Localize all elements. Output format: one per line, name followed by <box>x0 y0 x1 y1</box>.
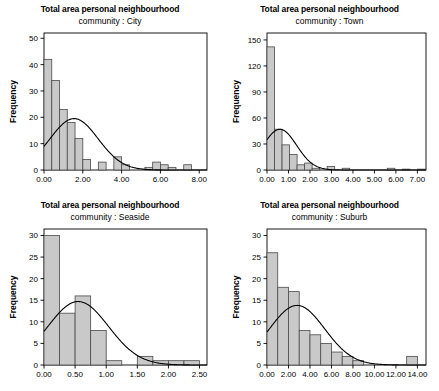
plot-area: 0.001.002.003.004.005.006.007.0003060901… <box>220 0 439 196</box>
y-tick-label: 10 <box>29 318 38 327</box>
x-tick-label: 12.00 <box>386 370 407 379</box>
y-tick-label: 30 <box>252 231 261 240</box>
y-tick-label: 10 <box>29 140 38 149</box>
x-tick-label: 6.00 <box>388 175 404 184</box>
x-tick-label: 3.00 <box>324 175 340 184</box>
x-tick-label: 0.00 <box>36 370 52 379</box>
x-tick-label: 0.00 <box>259 175 275 184</box>
y-tick-label: 10 <box>252 318 261 327</box>
histogram-bar <box>160 165 168 170</box>
histogram-bar <box>407 356 418 365</box>
histogram-bar <box>184 165 192 170</box>
x-tick-label: 0.00 <box>259 370 275 379</box>
x-tick-label: 0.00 <box>36 175 52 184</box>
x-tick-label: 2.00 <box>281 370 297 379</box>
x-tick-label: 6.00 <box>153 175 169 184</box>
histogram-bar <box>267 47 275 170</box>
histogram-bar <box>52 80 60 170</box>
y-tick-label: 20 <box>29 275 38 284</box>
y-axis-label: Frequency <box>8 275 18 318</box>
y-tick-label: 120 <box>248 62 262 71</box>
y-axis-label: Frequency <box>231 80 241 123</box>
y-tick-label: 30 <box>29 231 38 240</box>
x-tick-label: 8.00 <box>345 370 361 379</box>
x-tick-label: 8.00 <box>191 175 207 184</box>
x-tick-label: 5.00 <box>367 175 383 184</box>
plot-area: 0.000.501.001.502.002.50051015202530Freq… <box>0 196 220 391</box>
histogram-bar <box>67 123 75 170</box>
x-tick-label: 2.00 <box>161 370 177 379</box>
histogram-bar <box>44 235 60 365</box>
x-tick-label: 10.00 <box>364 370 385 379</box>
histogram-bar <box>282 145 290 170</box>
histogram-bar <box>60 313 76 365</box>
y-tick-label: 15 <box>29 296 38 305</box>
histogram-bar <box>278 287 289 365</box>
x-tick-label: 1.50 <box>130 370 146 379</box>
y-tick-label: 15 <box>252 296 261 305</box>
x-tick-label: 0.50 <box>67 370 83 379</box>
histogram-bar <box>297 165 305 170</box>
x-tick-label: 7.00 <box>410 175 426 184</box>
y-tick-label: 0 <box>257 361 262 370</box>
histogram-bar <box>331 352 342 365</box>
y-tick-label: 30 <box>252 140 261 149</box>
plot-area: 0.002.004.006.008.0001020304050Frequency <box>0 0 220 196</box>
histogram-bar <box>83 159 91 170</box>
histogram-bar <box>98 162 106 170</box>
y-tick-label: 90 <box>252 88 261 97</box>
histogram-bar <box>44 59 52 170</box>
panel-city: Total area personal neighbourhood commun… <box>0 0 220 196</box>
histogram-bar <box>299 330 310 365</box>
plot-area: 0.002.004.006.008.0010.0012.0014.0005101… <box>220 196 439 391</box>
histogram-bar <box>275 129 283 170</box>
histogram-bar <box>267 253 278 365</box>
x-tick-label: 6.00 <box>324 370 340 379</box>
histogram-bar <box>114 157 122 170</box>
x-tick-label: 2.00 <box>302 175 318 184</box>
y-tick-label: 0 <box>34 166 39 175</box>
y-axis-label: Frequency <box>231 275 241 318</box>
y-tick-label: 20 <box>252 275 261 284</box>
y-tick-label: 60 <box>252 114 261 123</box>
histogram-bar <box>106 361 122 365</box>
x-tick-label: 1.00 <box>98 370 114 379</box>
y-tick-label: 25 <box>252 253 261 262</box>
y-tick-label: 5 <box>257 339 262 348</box>
histogram-panel-grid: Total area personal neighbourhood commun… <box>0 0 439 391</box>
x-tick-label: 4.00 <box>345 175 361 184</box>
panel-suburb: Total area personal neighbourhood commun… <box>220 196 439 391</box>
x-tick-label: 1.00 <box>281 175 297 184</box>
histogram-bar <box>290 154 298 170</box>
panel-town: Total area personal neighbourhood commun… <box>220 0 439 196</box>
y-axis-label: Frequency <box>8 80 18 123</box>
y-tick-label: 40 <box>29 61 38 70</box>
histogram-bar <box>310 335 321 365</box>
x-tick-label: 2.00 <box>75 175 91 184</box>
x-tick-label: 2.50 <box>192 370 208 379</box>
panel-seaside: Total area personal neighbourhood commun… <box>0 196 220 391</box>
x-tick-label: 4.00 <box>114 175 130 184</box>
x-tick-label: 4.00 <box>302 370 318 379</box>
y-tick-label: 5 <box>34 339 39 348</box>
y-tick-label: 30 <box>29 87 38 96</box>
plot-frame <box>267 33 426 170</box>
y-tick-label: 50 <box>29 34 38 43</box>
histogram-bar <box>342 356 353 365</box>
histogram-bar <box>60 109 68 170</box>
histogram-bar <box>288 292 299 365</box>
y-tick-label: 0 <box>257 166 262 175</box>
histogram-bar <box>75 296 91 365</box>
histogram-bar <box>321 343 332 365</box>
histogram-bar <box>312 168 320 170</box>
x-tick-label: 14.00 <box>407 370 428 379</box>
y-tick-label: 0 <box>34 361 39 370</box>
y-tick-label: 25 <box>29 253 38 262</box>
histogram-bar <box>75 138 83 170</box>
histogram-bar <box>153 162 161 170</box>
y-tick-label: 150 <box>248 36 262 45</box>
y-tick-label: 20 <box>29 113 38 122</box>
histogram-bar <box>91 330 107 365</box>
histogram-bar <box>305 163 313 170</box>
